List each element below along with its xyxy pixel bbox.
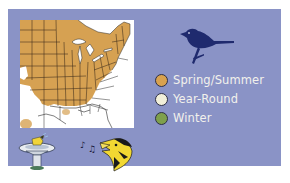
legend-item-year-round: Year-Round bbox=[155, 90, 280, 108]
winter-swatch-icon bbox=[155, 112, 168, 125]
spring-summer-swatch-icon bbox=[155, 74, 168, 87]
bird-silhouette-icon bbox=[178, 27, 236, 67]
legend: Spring/Summer Year-Round Winter bbox=[155, 71, 280, 128]
legend-item-winter: Winter bbox=[155, 109, 280, 127]
svg-text:♪: ♪ bbox=[80, 140, 86, 150]
year-round-swatch-icon bbox=[155, 93, 168, 106]
range-map-card-page: Spring/Summer Year-Round Winter ♪ ♫ bbox=[0, 0, 290, 183]
legend-label: Spring/Summer bbox=[173, 73, 264, 87]
svg-text:♫: ♫ bbox=[88, 144, 96, 154]
legend-label: Winter bbox=[173, 111, 212, 125]
legend-item-spring-summer: Spring/Summer bbox=[155, 71, 280, 89]
range-map bbox=[20, 20, 134, 128]
legend-label: Year-Round bbox=[173, 92, 238, 106]
birdbath-icon bbox=[16, 133, 58, 171]
us-east-map-icon bbox=[20, 20, 134, 128]
singing-bird-icon: ♪ ♫ bbox=[78, 133, 136, 173]
